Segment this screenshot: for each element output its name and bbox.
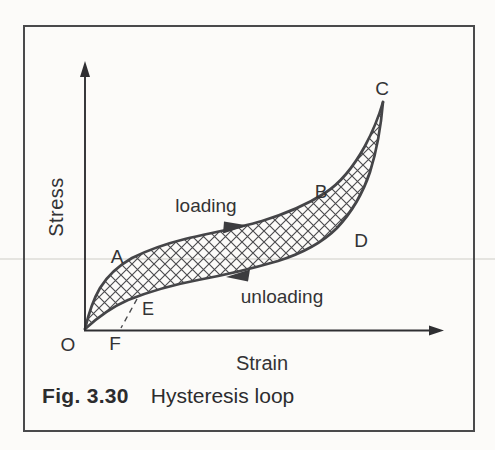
point-label-b: B [315,182,328,201]
point-label-f: F [109,334,121,353]
figure-caption: Fig. 3.30 Hysteresis loop [42,384,294,408]
point-label-e: E [142,300,154,318]
unloading-annotation: unloading [241,287,323,306]
figure-caption-number: Fig. 3.30 [42,384,129,408]
hysteresis-plot [0,0,495,450]
point-label-a: A [111,247,124,266]
point-label-d: D [354,231,368,250]
point-label-origin: O [61,335,76,354]
loading-annotation: loading [175,196,236,215]
x-axis-arrow-icon [429,326,444,336]
point-label-c: C [375,79,389,98]
y-axis-label: Stress [46,177,66,237]
x-axis-label: Strain [236,353,288,373]
scanned-textbook-figure: O F A B C D E loading unloading Stress S… [0,0,495,450]
y-axis-arrow-icon [80,61,90,77]
figure-caption-title: Hysteresis loop [151,384,295,408]
hysteresis-area-hatch [85,102,383,329]
